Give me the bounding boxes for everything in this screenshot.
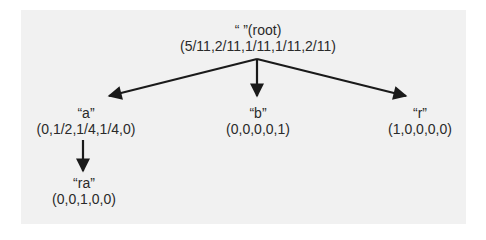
edge-root-to-a [109, 59, 257, 96]
node-ra-distribution: (0,0,1,0,0) [52, 191, 116, 207]
node-root-distribution: (5/11,2/11,1/11,1/11,2/11) [180, 38, 336, 54]
node-a: “a” (0,1/2,1/4,1/4,0) [37, 105, 136, 137]
node-r-distribution: (1,0,0,0,0) [388, 121, 452, 137]
node-ra: “ra” (0,0,1,0,0) [52, 175, 116, 207]
node-b-label: “b” [226, 105, 290, 121]
edge-root-to-r [257, 59, 406, 96]
node-r-label: “r” [388, 105, 452, 121]
node-b-distribution: (0,0,0,0,1) [226, 121, 290, 137]
node-ra-label: “ra” [52, 175, 116, 191]
node-a-distribution: (0,1/2,1/4,1/4,0) [37, 121, 136, 137]
node-b: “b” (0,0,0,0,1) [226, 105, 290, 137]
node-a-label: “a” [37, 105, 136, 121]
node-root: “ ”(root) (5/11,2/11,1/11,1/11,2/11) [180, 22, 336, 54]
node-root-label: “ ”(root) [180, 22, 336, 38]
node-r: “r” (1,0,0,0,0) [388, 105, 452, 137]
